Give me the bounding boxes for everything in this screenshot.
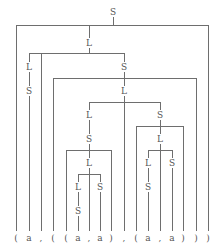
terminal-4: ( (64, 233, 68, 243)
node-label-S-mid: S (86, 134, 92, 144)
terminal-label-group: ( a , ( ( a , a ) , ( a , a ) ) ) (14, 233, 210, 243)
node-label-S-inner2: S (157, 110, 163, 120)
node-label-L-inner1: L (86, 158, 92, 168)
node-label-L-level1: L (86, 38, 92, 48)
terminal-11: a (145, 233, 151, 243)
terminal-5: a (75, 233, 81, 243)
node-label-group: S L L S S L L S L L S S S L L S S (26, 7, 175, 216)
terminal-16: ) (206, 233, 210, 243)
node-label-L-inner2: L (157, 134, 163, 144)
terminal-6: , (88, 233, 91, 243)
parse-tree-figure: S L L S S L L S L L S S S L L S S ( a , … (0, 0, 219, 252)
terminal-3: ( (51, 233, 55, 243)
edge-group-level1 (29, 48, 124, 231)
terminal-9: , (123, 233, 126, 243)
terminal-10: ( (134, 233, 138, 243)
node-label-S-inner2b: S (169, 158, 175, 168)
terminal-15: ) (194, 233, 198, 243)
node-label-S-inner1c: S (75, 206, 81, 216)
node-label-L-right: L (121, 86, 127, 96)
node-label-S-inner1b: S (97, 182, 103, 192)
node-label-S-inner2c: S (145, 182, 151, 192)
terminal-14: ) (181, 233, 185, 243)
terminal-12: , (159, 233, 162, 243)
terminal-13: a (169, 233, 175, 243)
node-label-L-inner1a: L (75, 182, 81, 192)
terminal-7: a (97, 233, 103, 243)
node-label-S-right: S (121, 62, 127, 72)
node-label-L-inner2a: L (145, 158, 151, 168)
terminal-2: , (40, 233, 43, 243)
node-label-root-S: S (110, 7, 116, 17)
node-label-L-mid: L (86, 110, 92, 120)
terminal-8: ) (109, 233, 113, 243)
node-label-S-left: S (26, 86, 32, 96)
terminal-1: a (26, 233, 32, 243)
terminal-0: ( (14, 233, 18, 243)
edge-group-root (16, 17, 208, 231)
node-label-L-left: L (26, 62, 32, 72)
